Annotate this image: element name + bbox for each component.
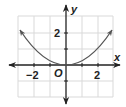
coordinate-graph: −2 2 2 O x y xyxy=(0,0,126,107)
y-tick-label-2: 2 xyxy=(54,27,60,39)
y-axis-label: y xyxy=(70,3,78,15)
x-tick-label-2: 2 xyxy=(94,69,100,81)
origin-label: O xyxy=(54,67,63,79)
x-tick-label-neg2: −2 xyxy=(26,69,39,81)
x-axis-label: x xyxy=(113,51,121,63)
